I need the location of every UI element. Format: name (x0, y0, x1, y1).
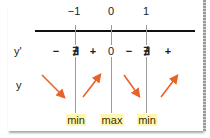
arrow-down-icon (124, 75, 139, 96)
arrow-down-icon (42, 75, 64, 97)
arrow-up-icon (161, 76, 177, 97)
extremum-label-min: min (66, 114, 86, 126)
extremum-label-max: max (101, 114, 124, 126)
extremum-label-min: min (137, 114, 157, 126)
arrow-up-icon (83, 75, 100, 97)
